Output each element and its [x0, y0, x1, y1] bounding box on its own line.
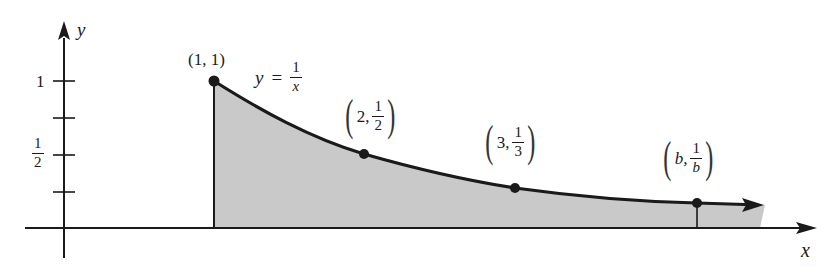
y-tick-label-half: 1 2	[32, 136, 44, 171]
point-3-third	[510, 183, 520, 193]
point-label-1-1: (1, 1)	[188, 51, 225, 68]
point-b	[692, 198, 702, 208]
point-label-2-half: ( 2, 1 2 )	[342, 94, 399, 138]
y-axis-arrow-icon	[58, 21, 70, 40]
point-label-3-third: ( 3, 1 3 )	[482, 120, 539, 164]
point-label-b: ( b, 1 b )	[660, 136, 717, 180]
curve-label: y = 1 x	[255, 60, 302, 95]
point-1-1	[209, 76, 220, 87]
y-tick-label-1: 1	[36, 73, 45, 90]
x-axis-label: x	[801, 240, 810, 260]
point-2-half	[359, 149, 369, 159]
y-axis-label: y	[77, 20, 85, 39]
